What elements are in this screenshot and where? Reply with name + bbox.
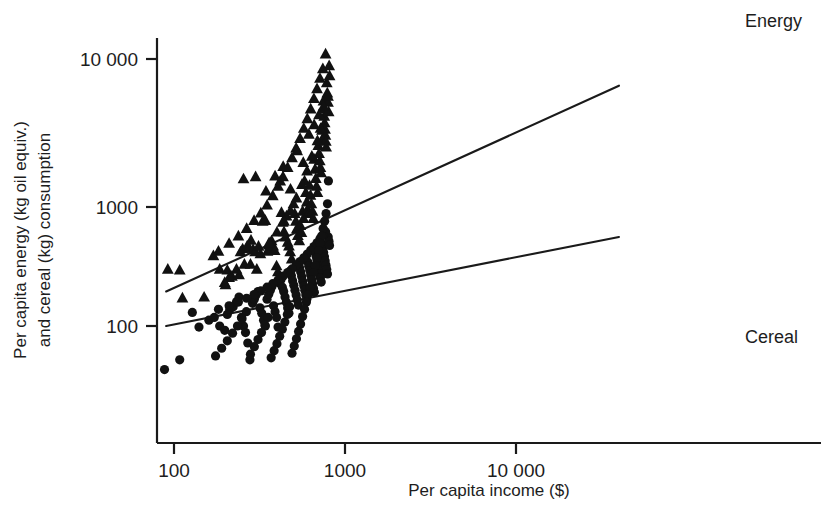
data-point-triangle [250, 171, 262, 182]
data-point-triangle [223, 237, 235, 248]
data-point-circle [220, 326, 229, 335]
data-point-circle [324, 176, 333, 185]
data-point-triangle [297, 156, 309, 167]
y-tick-label: 1000 [96, 197, 138, 218]
annotation-cereal: Cereal [745, 327, 798, 347]
y-axis-title-line-2: and cereal (kg) consumption [35, 133, 54, 348]
annotation-energy: Energy [745, 11, 802, 31]
data-point-circle [210, 313, 219, 322]
axis-lines [157, 38, 821, 443]
data-point-circle [323, 269, 332, 278]
data-point-triangle [285, 183, 297, 194]
x-tick-label: 10 000 [487, 460, 545, 481]
plot-canvas: 100100010 000 100100010 000 EnergyCereal… [0, 0, 840, 518]
figure-scatter-income-vs-consumption: 100100010 000 100100010 000 EnergyCereal… [0, 0, 840, 518]
data-point-triangle [260, 185, 272, 196]
data-point-triangle [261, 199, 273, 210]
data-point-triangle [311, 82, 323, 93]
data-point-circle [267, 353, 276, 362]
data-point-triangle [198, 291, 210, 302]
data-point-circle [241, 328, 250, 337]
data-point-triangle [245, 234, 257, 245]
series-annotations: EnergyCereal [745, 11, 802, 347]
data-point-circle [217, 344, 226, 353]
data-point-circle [160, 365, 169, 374]
data-point-circle [319, 224, 328, 233]
x-axis-title: Per capita income ($) [408, 481, 570, 500]
data-point-circle [214, 305, 223, 314]
data-point-circle [234, 297, 243, 306]
data-point-circle [188, 308, 197, 317]
data-point-triangle [269, 170, 281, 181]
y-axis-title-line-1: Per capita energy (kg oil equiv.) [11, 121, 30, 359]
data-point-circle [211, 351, 220, 360]
data-point-circle [228, 329, 237, 338]
data-point-triangle [320, 48, 332, 59]
x-tick-label: 1000 [324, 460, 366, 481]
data-point-circle [272, 313, 281, 322]
data-point-circle [194, 322, 203, 331]
data-point-circle [323, 199, 332, 208]
data-point-circle [325, 241, 334, 250]
data-point-triangle [177, 292, 189, 303]
fit-line-energy [166, 86, 619, 292]
fit-lines [166, 86, 619, 326]
y-tick-label: 10 000 [80, 49, 138, 70]
data-point-triangle [308, 92, 320, 103]
data-point-triangle [174, 264, 186, 275]
data-point-triangle [314, 72, 326, 83]
data-point-circle [175, 355, 184, 364]
data-point-triangle [301, 113, 313, 124]
y-tick-label: 100 [106, 316, 138, 337]
x-axis-ticks: 100100010 000 [158, 443, 545, 481]
data-point-triangle [305, 103, 317, 114]
data-point-circle [317, 277, 326, 286]
data-point-circle [242, 294, 251, 303]
data-point-triangle [238, 173, 250, 184]
data-point-circle [287, 349, 296, 358]
data-point-triangle [162, 263, 174, 274]
data-point-circle [246, 350, 255, 359]
data-point-circle [224, 301, 233, 310]
data-point-circle [223, 336, 232, 345]
x-tick-label: 100 [158, 460, 190, 481]
y-axis-ticks: 100100010 000 [80, 49, 157, 337]
